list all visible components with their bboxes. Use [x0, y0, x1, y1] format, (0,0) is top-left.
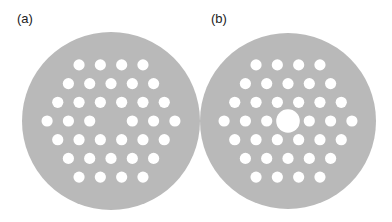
hole — [240, 115, 251, 126]
hole — [325, 115, 336, 126]
hole — [336, 97, 347, 108]
hole — [272, 97, 283, 108]
hole — [240, 153, 251, 164]
hole — [304, 115, 315, 126]
hole — [116, 59, 127, 70]
hole — [250, 134, 261, 145]
hole — [159, 97, 170, 108]
hole — [105, 78, 116, 89]
hole — [293, 59, 304, 70]
hole — [127, 78, 138, 89]
hole — [272, 59, 283, 70]
hole — [261, 153, 272, 164]
hole — [116, 134, 127, 145]
plate-a — [22, 32, 200, 210]
hole — [261, 115, 272, 126]
hole — [148, 115, 159, 126]
hole — [282, 78, 293, 89]
hole — [304, 78, 315, 89]
center-hole — [276, 109, 300, 133]
hole — [240, 78, 251, 89]
hole — [250, 97, 261, 108]
hole — [169, 115, 180, 126]
hole — [229, 134, 240, 145]
hole — [95, 59, 106, 70]
hole — [293, 97, 304, 108]
hole — [282, 153, 293, 164]
hole — [84, 115, 95, 126]
hole — [95, 97, 106, 108]
hole — [159, 134, 170, 145]
hole — [304, 153, 315, 164]
hole — [73, 97, 84, 108]
hole — [63, 115, 74, 126]
hole — [127, 153, 138, 164]
hole — [325, 78, 336, 89]
hole — [137, 172, 148, 183]
hole — [137, 97, 148, 108]
hole — [250, 172, 261, 183]
hole — [293, 172, 304, 183]
hole — [293, 134, 304, 145]
plate-b — [200, 33, 376, 209]
hole — [219, 115, 230, 126]
hole — [272, 172, 283, 183]
hole — [314, 97, 325, 108]
hole — [95, 172, 106, 183]
hole — [63, 78, 74, 89]
hole — [116, 172, 127, 183]
hole — [84, 78, 95, 89]
hole — [42, 115, 53, 126]
hole — [52, 97, 63, 108]
hole — [314, 134, 325, 145]
hole — [229, 97, 240, 108]
hole — [137, 134, 148, 145]
hole — [346, 115, 357, 126]
hole — [127, 115, 138, 126]
hole — [73, 134, 84, 145]
hole — [52, 134, 63, 145]
hole — [314, 59, 325, 70]
hole — [95, 134, 106, 145]
hole — [84, 153, 95, 164]
perforated-plates-diagram — [0, 0, 392, 222]
hole — [137, 59, 148, 70]
hole — [105, 153, 116, 164]
hole — [73, 172, 84, 183]
hole — [250, 59, 261, 70]
hole — [73, 59, 84, 70]
hole — [325, 153, 336, 164]
hole — [314, 172, 325, 183]
hole — [272, 134, 283, 145]
hole — [63, 153, 74, 164]
hole — [148, 78, 159, 89]
hole — [116, 97, 127, 108]
hole — [261, 78, 272, 89]
hole — [148, 153, 159, 164]
hole — [336, 134, 347, 145]
